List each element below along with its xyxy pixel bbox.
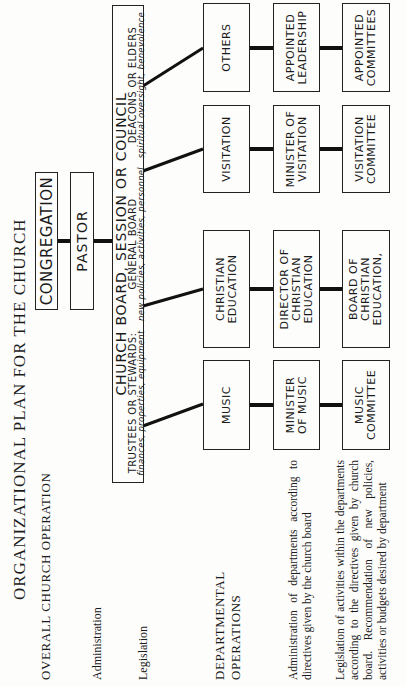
music-committee-box: MUSIC COMMITTEE (342, 360, 390, 450)
appointed-committees-box: APPOINTED COMMITTEES (342, 3, 390, 92)
deacons-group: DEACONS OR ELDERS spiritual oversight, b… (128, 10, 146, 160)
music-department-box: MUSIC (203, 360, 250, 450)
dept-admin-description: Administration of departments according … (286, 460, 314, 680)
committee-label: MUSIC COMMITTEE (354, 365, 378, 445)
leader-label: APPOINTED LEADERSHIP (285, 8, 309, 88)
legislation-label: Legislation (136, 626, 151, 680)
general-board-duties: new policies, activities, personnel (137, 164, 146, 324)
others-department-box: OTHERS (203, 3, 250, 92)
deacons-duties: spiritual oversight, benevolence (137, 10, 146, 160)
departmental-heading-line2: OPERATIONS (228, 571, 244, 680)
pastor-label: PASTOR (74, 210, 90, 271)
church-board-box: CHURCH BOARD, SESSION OR COUNCIL TRUSTEE… (112, 5, 144, 483)
appointed-leadership-box: APPOINTED LEADERSHIP (273, 3, 320, 92)
general-board-group: GENERAL BOARD new policies, activities, … (128, 164, 146, 324)
page-title: ORGANIZATIONAL PLAN FOR THE CHURCH (10, 160, 30, 600)
departmental-operations-heading: DEPARTMENTAL OPERATIONS (212, 571, 244, 680)
departmental-heading-line1: DEPARTMENTAL (212, 571, 228, 680)
committee-label: BOARD OF CHRISTIAN EDUCATION, (348, 235, 384, 343)
document-page: ORGANIZATIONAL PLAN FOR THE CHURCH OVERA… (0, 0, 406, 686)
minister-of-visitation-box: MINISTER OF VISITATION (273, 105, 320, 193)
dept-legislation-description: Legislation of activities within the dep… (333, 460, 389, 680)
department-label: CHRISTIAN EDUCATION (215, 249, 239, 329)
church-board-title: CHURCH BOARD, SESSION OR COUNCIL (114, 10, 128, 478)
director-of-christian-education-box: DIRECTOR OF CHRISTIAN EDUCATION (273, 230, 320, 348)
department-label: VISITATION (221, 116, 233, 181)
department-label: OTHERS (221, 23, 233, 71)
visitation-committee-box: VISITATION COMMITTEE (342, 105, 390, 193)
committee-label: VISITATION COMMITTEE (354, 109, 378, 189)
minister-of-music-box: MINISTER OF MUSIC (273, 360, 320, 450)
christian-education-department-box: CHRISTIAN EDUCATION (203, 230, 250, 348)
department-label: MUSIC (221, 386, 233, 424)
overall-operation-heading: OVERALL CHURCH OPERATION (38, 473, 54, 680)
committee-label: APPOINTED COMMITTEES (354, 8, 378, 88)
board-of-christian-education-box: BOARD OF CHRISTIAN EDUCATION, (342, 230, 390, 348)
leader-label: MINISTER OF VISITATION (285, 109, 309, 189)
leader-label: DIRECTOR OF CHRISTIAN EDUCATION (279, 235, 315, 343)
trustees-group: TRUSTEES OR STEWARDS: finances, properti… (128, 328, 146, 478)
leader-label: MINISTER OF MUSIC (285, 370, 309, 440)
congregation-box: CONGREGATION (35, 172, 58, 310)
visitation-department-box: VISITATION (203, 105, 250, 193)
pastor-box: PASTOR (70, 172, 94, 310)
rotated-page-content: ORGANIZATIONAL PLAN FOR THE CHURCH OVERA… (0, 0, 406, 686)
trustees-duties: finances, properties, equipment (137, 328, 146, 478)
administration-label: Administration (90, 607, 105, 680)
congregation-label: CONGREGATION (38, 177, 56, 305)
